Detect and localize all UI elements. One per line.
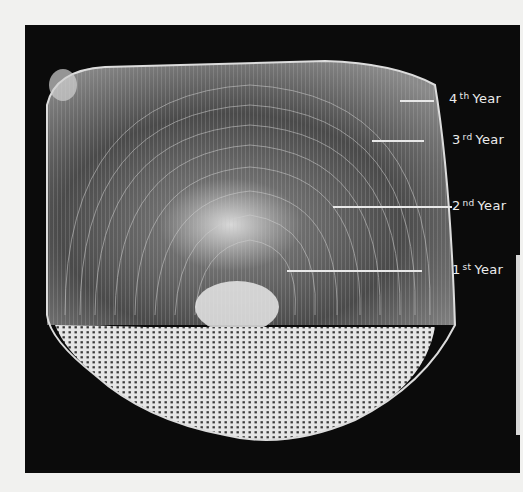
leader-line-2nd-year [333,206,452,208]
label-4th-year: 4thYear [449,92,501,106]
scale-photograph [25,25,520,473]
leader-line-3rd-year [372,140,424,142]
label-1st-year: 1stYear [452,263,503,277]
fish-scale-illustration [25,25,520,473]
label-3rd-year: 3rdYear [452,133,504,147]
leader-line-4th-year [400,100,434,102]
label-2nd-year: 2ndYear [452,199,506,213]
leader-line-1st-year [287,270,422,272]
page-edge-strip [516,255,520,435]
